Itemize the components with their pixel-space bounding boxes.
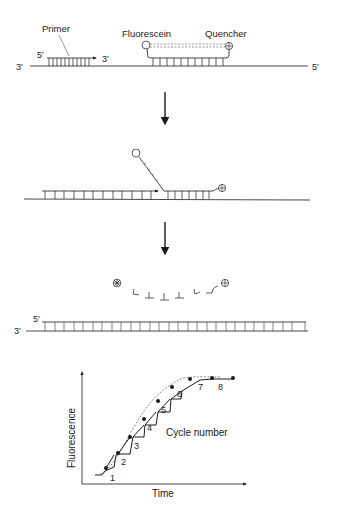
panel-annealing: 3' 5' 5' 3' Primer Fluorescein Quencher [16, 23, 319, 72]
svg-text:7: 7 [198, 382, 203, 392]
primer-5-label: 5' [37, 50, 44, 60]
svg-text:8: 8 [218, 382, 223, 392]
fluorescein-label: Fluorescein [122, 28, 171, 39]
primer-leader-line [59, 35, 69, 56]
fluorescein-released-icon [113, 279, 121, 287]
product-3-label: 3' [14, 326, 21, 336]
template-strand-2 [24, 199, 310, 200]
primer-3-label: 3' [102, 54, 109, 64]
y-axis-label: Fluorescence [66, 408, 77, 468]
primer: 5' 3' Primer [37, 23, 109, 66]
svg-text:5: 5 [161, 405, 166, 415]
quencher-icon [225, 42, 232, 49]
quencher-label: Quencher [205, 28, 247, 39]
quencher-icon-3 [221, 279, 228, 286]
svg-text:1: 1 [110, 473, 115, 483]
cycle-number-annotation: Cycle number [166, 427, 228, 438]
probe-fragments [133, 286, 218, 300]
template-3-label: 3' [16, 62, 23, 72]
fluorescein-icon [142, 41, 150, 49]
panel-released-fluorophore: 5' 3' [14, 279, 308, 336]
primer-label: Primer [42, 23, 70, 34]
svg-text:2: 2 [121, 457, 126, 467]
panel-extension-cleavage [24, 149, 310, 200]
taqman-probe: Fluorescein Quencher [122, 28, 247, 66]
diagram-canvas: 3' 5' 5' 3' Primer Fluorescein Quencher [0, 0, 337, 510]
quencher-icon-2 [218, 184, 225, 191]
svg-text:4: 4 [147, 423, 152, 433]
probe-flap [139, 157, 164, 191]
fluorescein-icon-2 [132, 149, 140, 157]
svg-text:6: 6 [177, 389, 182, 399]
product-5-label: 5' [33, 314, 40, 324]
fluorescence-chart: Fluorescence Time Cycle number 1 [66, 372, 246, 499]
taqman-diagram: 3' 5' 5' 3' Primer Fluorescein Quencher [0, 0, 337, 510]
template-5-label: 5' [312, 62, 319, 72]
x-axis-label: Time [152, 488, 174, 499]
cycle-points [104, 376, 235, 470]
svg-text:3: 3 [134, 441, 139, 451]
